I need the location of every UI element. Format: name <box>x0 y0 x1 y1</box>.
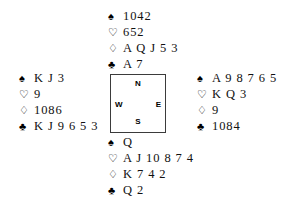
diamond-icon: ♢ <box>197 102 210 118</box>
hand-west-club-row: ♣ K J 9 6 5 3 <box>19 118 98 134</box>
hand-east-hearts: K Q 3 <box>210 86 247 102</box>
hand-east-spade-row: ♠ A 9 8 7 6 5 <box>197 70 277 86</box>
hand-north-diamond-row: ♢ A Q J 5 3 <box>108 40 178 56</box>
hand-north-spade-row: ♠ 1042 <box>108 8 178 24</box>
hand-east-club-row: ♣ 1084 <box>197 118 277 134</box>
diamond-icon: ♢ <box>19 102 32 118</box>
hand-east-diamonds: 9 <box>210 102 219 118</box>
compass-label-south: S <box>111 118 165 126</box>
spade-icon: ♠ <box>19 70 32 86</box>
bridge-deal-diagram: ♠ 1042 ♡ 652 ♢ A Q J 5 3 ♣ A 7 ♠ K J 3 ♡… <box>0 0 291 210</box>
hand-east-diamond-row: ♢ 9 <box>197 102 277 118</box>
hand-west-spades: K J 3 <box>32 70 65 86</box>
club-icon: ♣ <box>19 118 32 134</box>
hand-south-club-row: ♣ Q 2 <box>108 182 194 198</box>
spade-icon: ♠ <box>108 8 121 24</box>
hand-south-heart-row: ♡ A J 10 8 7 4 <box>108 150 194 166</box>
hand-north: ♠ 1042 ♡ 652 ♢ A Q J 5 3 ♣ A 7 <box>108 8 178 72</box>
hand-north-spades: 1042 <box>121 8 152 24</box>
diamond-icon: ♢ <box>108 40 121 56</box>
hand-west-hearts: 9 <box>32 86 41 102</box>
heart-icon: ♡ <box>108 150 121 166</box>
hand-south-spades: Q <box>121 134 133 150</box>
hand-east: ♠ A 9 8 7 6 5 ♡ K Q 3 ♢ 9 ♣ 1084 <box>197 70 277 134</box>
compass-label-east: E <box>156 101 161 109</box>
spade-icon: ♠ <box>197 70 210 86</box>
compass-label-north: N <box>111 80 165 88</box>
hand-west-diamond-row: ♢ 1086 <box>19 102 98 118</box>
diamond-icon: ♢ <box>108 166 121 182</box>
hand-south-spade-row: ♠ Q <box>108 134 194 150</box>
spade-icon: ♠ <box>108 134 121 150</box>
compass-box: N W E S <box>110 74 166 133</box>
hand-north-diamonds: A Q J 5 3 <box>121 40 178 56</box>
heart-icon: ♡ <box>108 24 121 40</box>
hand-west-diamonds: 1086 <box>32 102 63 118</box>
hand-north-hearts: 652 <box>121 24 144 40</box>
hand-south-diamonds: K 7 4 2 <box>121 166 166 182</box>
heart-icon: ♡ <box>197 86 210 102</box>
club-icon: ♣ <box>197 118 210 134</box>
club-icon: ♣ <box>108 56 121 72</box>
hand-north-clubs: A 7 <box>121 56 143 72</box>
club-icon: ♣ <box>108 182 121 198</box>
hand-north-club-row: ♣ A 7 <box>108 56 178 72</box>
hand-south: ♠ Q ♡ A J 10 8 7 4 ♢ K 7 4 2 ♣ Q 2 <box>108 134 194 198</box>
hand-east-spades: A 9 8 7 6 5 <box>210 70 277 86</box>
hand-south-diamond-row: ♢ K 7 4 2 <box>108 166 194 182</box>
hand-west: ♠ K J 3 ♡ 9 ♢ 1086 ♣ K J 9 6 5 3 <box>19 70 98 134</box>
hand-west-heart-row: ♡ 9 <box>19 86 98 102</box>
compass-label-west: W <box>115 101 123 109</box>
hand-east-heart-row: ♡ K Q 3 <box>197 86 277 102</box>
hand-south-clubs: Q 2 <box>121 182 144 198</box>
hand-north-heart-row: ♡ 652 <box>108 24 178 40</box>
hand-east-clubs: 1084 <box>210 118 241 134</box>
hand-west-clubs: K J 9 6 5 3 <box>32 118 98 134</box>
hand-west-spade-row: ♠ K J 3 <box>19 70 98 86</box>
heart-icon: ♡ <box>19 86 32 102</box>
hand-south-hearts: A J 10 8 7 4 <box>121 150 194 166</box>
